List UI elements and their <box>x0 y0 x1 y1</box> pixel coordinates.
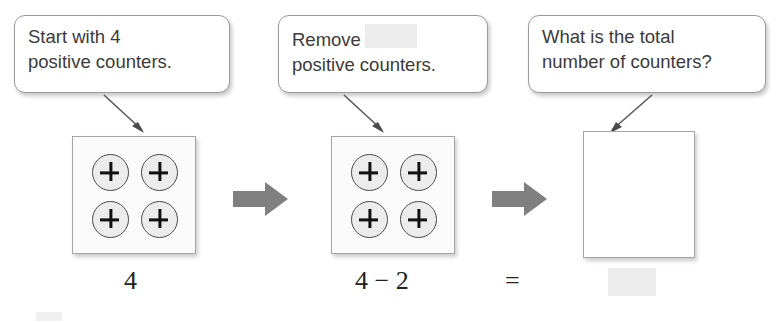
equation-term-1: 4 <box>124 266 137 296</box>
flow-arrow-right-icon <box>233 181 289 217</box>
callout-total-line-2: number of counters? <box>542 49 753 74</box>
counter-grid-start <box>86 149 184 243</box>
flow-arrow-right-icon <box>492 181 548 217</box>
positive-counter-icon <box>141 154 178 191</box>
positive-counter-icon <box>141 201 178 238</box>
callout-start-line-2: positive counters. <box>28 49 217 74</box>
equation-equals-sign: = <box>505 266 520 296</box>
callout-remove: Remove positive counters. <box>278 15 488 93</box>
leader-arrow-start <box>100 92 170 140</box>
positive-counter-icon <box>92 154 129 191</box>
callout-remove-line-2: positive counters. <box>292 52 475 77</box>
equation-term-2: 4 − 2 <box>355 266 409 296</box>
callout-remove-prefix: Remove <box>292 29 361 50</box>
redacted-number-blank <box>365 24 417 48</box>
callout-start-line-1: Start with 4 <box>28 24 217 49</box>
leader-arrow-remove <box>340 92 410 140</box>
counter-box-start <box>72 136 196 254</box>
callout-total: What is the total number of counters? <box>528 15 766 93</box>
positive-counter-icon <box>400 201 437 238</box>
redacted-answer-blank <box>608 268 656 296</box>
callout-start: Start with 4 positive counters. <box>14 15 230 93</box>
scan-artifact <box>36 312 62 321</box>
callout-total-line-1: What is the total <box>542 24 753 49</box>
worksheet-diagram: Start with 4 positive counters. Remove p… <box>0 0 780 323</box>
counter-box-answer <box>583 131 695 258</box>
counter-grid-after-remove <box>345 149 443 243</box>
positive-counter-icon <box>351 154 388 191</box>
positive-counter-icon <box>92 201 129 238</box>
counter-box-after-remove <box>331 136 455 254</box>
callout-remove-line-1: Remove <box>292 24 475 52</box>
positive-counter-icon <box>400 154 437 191</box>
positive-counter-icon <box>351 201 388 238</box>
